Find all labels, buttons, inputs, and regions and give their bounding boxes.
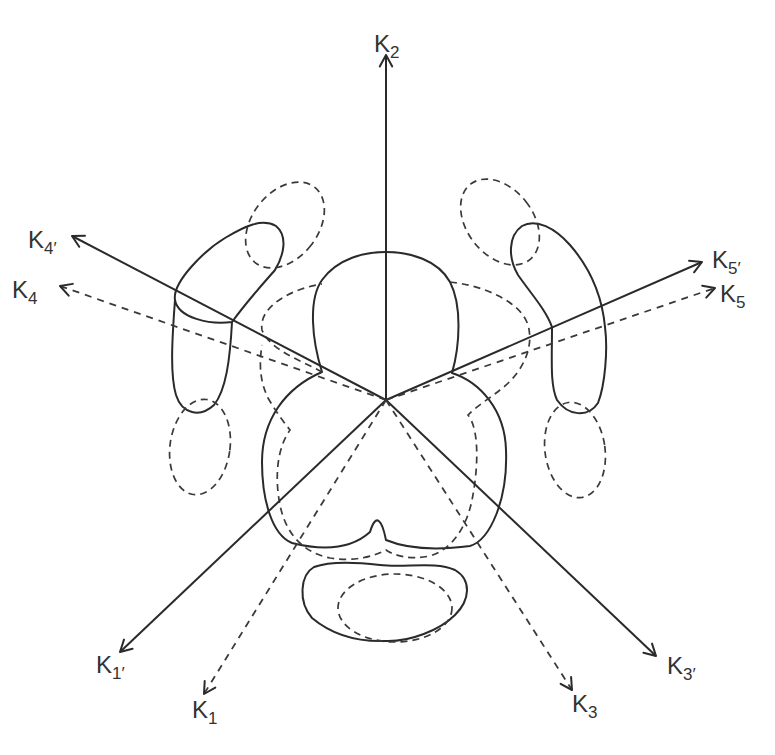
- axis-K4p: [72, 236, 386, 400]
- axis-label-letter: K: [374, 30, 390, 57]
- axis-label-letter: K: [720, 280, 736, 307]
- axis-label-letter: K: [192, 696, 208, 723]
- axis-label-subscript: 1′: [112, 664, 125, 683]
- axis-label-subscript: 5: [736, 293, 745, 312]
- axis-line-K5: [386, 288, 715, 400]
- axis-label-letter: K: [572, 690, 588, 717]
- right-top-dashed-ellipse: [444, 164, 555, 280]
- axis-label-subscript: 4: [28, 289, 37, 308]
- axis-label-subscript: 3′: [683, 665, 696, 684]
- axis-K2: [380, 55, 392, 400]
- axis-label-subscript: 2: [390, 43, 399, 62]
- axis-label-letter: K: [712, 246, 728, 273]
- arrowhead-icon: [60, 284, 73, 296]
- axis-line-K4p: [72, 236, 386, 400]
- left-top-dashed-ellipse: [229, 167, 340, 283]
- axis-label-subscript: 3: [588, 703, 597, 722]
- axis-label-K1: K1: [192, 698, 217, 727]
- axis-line-K3p: [386, 400, 656, 656]
- axis-label-K5p: K5′: [712, 248, 741, 277]
- axis-line-K5p: [386, 262, 702, 400]
- axis-label-K1p: K1′: [96, 653, 125, 682]
- axis-K4: [60, 284, 386, 400]
- axis-vectors: [60, 55, 715, 694]
- axis-label-subscript: 5′: [728, 259, 741, 278]
- axis-label-K4p: K4′: [28, 228, 57, 257]
- diagram-canvas: [0, 0, 775, 755]
- axis-label-letter: K: [667, 652, 683, 679]
- axis-line-K4: [60, 286, 386, 400]
- axis-label-K4: K4: [12, 278, 37, 307]
- axis-label-subscript: 4′: [44, 239, 57, 258]
- arrowhead-icon: [561, 677, 572, 690]
- left-bottom-dashed-ellipse: [164, 395, 237, 498]
- axis-K3p: [386, 400, 656, 656]
- axis-K5: [386, 286, 715, 400]
- axis-label-subscript: 1: [208, 709, 217, 728]
- axis-label-K2: K2: [374, 32, 399, 61]
- bottom-inner-dashed-ellipse: [338, 574, 452, 642]
- axis-label-K5: K5: [720, 282, 745, 311]
- axis-label-K3p: K3′: [667, 654, 696, 683]
- axis-label-letter: K: [28, 226, 44, 253]
- arrowhead-icon: [204, 681, 215, 694]
- axis-label-letter: K: [12, 276, 28, 303]
- axis-K5p: [386, 261, 702, 400]
- axis-label-K3: K3: [572, 692, 597, 721]
- axis-label-letter: K: [96, 651, 112, 678]
- right-bottom-dashed-ellipse: [539, 398, 612, 501]
- solid-contours: [172, 223, 606, 641]
- arrowhead-icon: [702, 286, 715, 298]
- central-pentagon-dashed: [260, 282, 529, 559]
